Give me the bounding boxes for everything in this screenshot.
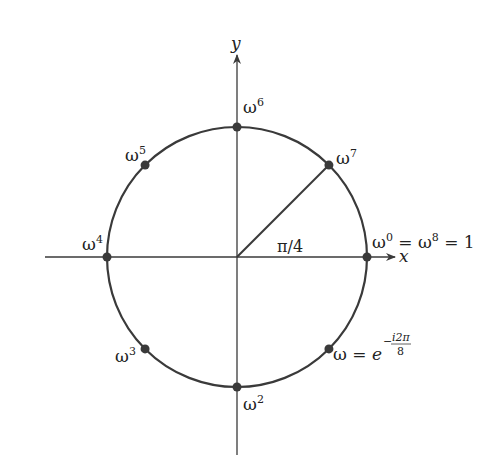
angle-label: π/4: [277, 237, 303, 256]
label-omega4: ω4: [82, 233, 103, 254]
unit-circle-diagram: x y π/4 ω0 = ω8 = 1 ω = e − i2π 8 ω2 ω3 …: [0, 0, 500, 476]
exponent-sign: −: [383, 335, 392, 348]
root-point-omega6: [233, 123, 242, 132]
label-omega2: ω2: [243, 393, 264, 414]
label-omega1: ω = e: [333, 344, 382, 364]
label-omega6: ω6: [243, 96, 264, 117]
root-point-omega2: [233, 383, 242, 392]
root-point-omega4: [103, 253, 112, 262]
exponent-denominator: 8: [397, 345, 404, 358]
label-omega7: ω7: [336, 147, 357, 168]
root-point-omega0: [363, 253, 372, 262]
label-omega0: ω0 = ω8 = 1: [372, 231, 475, 252]
exponent-numerator: i2π: [392, 331, 411, 344]
root-point-omega5: [141, 161, 150, 170]
y-axis-label: y: [230, 33, 241, 53]
label-omega3: ω3: [115, 345, 136, 366]
root-point-omega7: [324, 161, 333, 170]
root-point-omega3: [141, 344, 150, 353]
